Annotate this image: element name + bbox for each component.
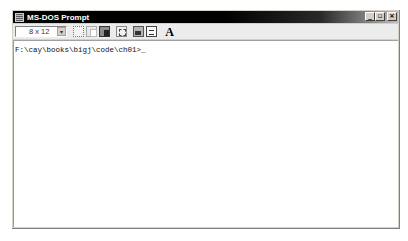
- font-icon[interactable]: A: [163, 26, 176, 38]
- font-size-value: 8 x 12: [29, 27, 49, 36]
- title-bar[interactable]: MS-DOS Prompt _ ▫ ×: [13, 11, 398, 23]
- ms-dos-icon[interactable]: [15, 13, 24, 22]
- close-button[interactable]: ×: [387, 12, 397, 21]
- minimize-button[interactable]: _: [365, 12, 375, 21]
- mark-icon[interactable]: [73, 26, 84, 37]
- restore-button[interactable]: ▫: [375, 12, 385, 21]
- window-title: MS-DOS Prompt: [27, 13, 89, 22]
- text-cursor: _: [141, 46, 146, 54]
- toolbar: 8 x 12 ▾ A: [13, 24, 398, 39]
- console-area[interactable]: F:\cay\books\bigj\code\ch01>_: [13, 41, 398, 227]
- chevron-down-icon[interactable]: ▾: [57, 27, 66, 36]
- command-prompt-line: F:\cay\books\bigj\code\ch01>_: [15, 46, 146, 54]
- background-icon[interactable]: [146, 26, 157, 37]
- font-size-dropdown[interactable]: 8 x 12 ▾: [15, 26, 67, 37]
- paste-icon[interactable]: [99, 26, 110, 37]
- properties-icon[interactable]: [133, 26, 144, 37]
- window-controls: _ ▫ ×: [365, 12, 397, 21]
- prompt-text: F:\cay\books\bigj\code\ch01>: [15, 46, 141, 54]
- copy-icon[interactable]: [86, 26, 97, 37]
- ms-dos-prompt-window: MS-DOS Prompt _ ▫ × 8 x 12 ▾ A F:\cay\bo…: [12, 10, 400, 229]
- full-screen-icon[interactable]: [116, 26, 127, 37]
